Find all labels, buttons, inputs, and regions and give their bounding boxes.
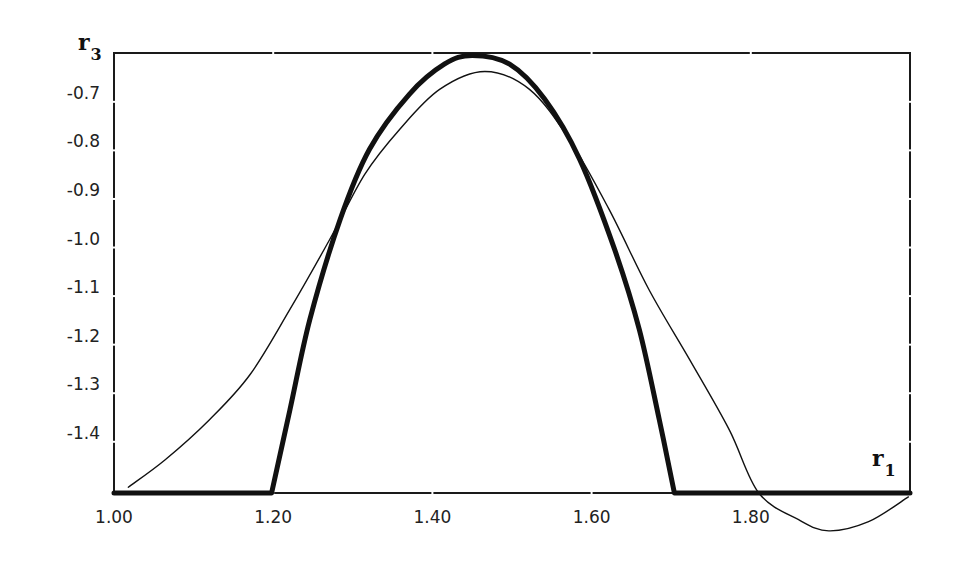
x-tick-label: 1.00 — [95, 507, 133, 527]
x-axis-title: r1 — [872, 445, 896, 480]
y-axis-ticks: -0.7-0.8-0.9-1.0-1.1-1.2-1.3-1.4 — [67, 83, 912, 443]
y-axis-title: r3 — [78, 29, 102, 64]
series-layer — [114, 55, 910, 531]
x-tick-label: 1.40 — [413, 507, 451, 527]
x-tick-label: 1.80 — [732, 507, 770, 527]
thick-curve-line — [114, 55, 910, 493]
x-tick-label: 1.60 — [573, 507, 611, 527]
y-tick-label: -0.7 — [67, 83, 100, 103]
x-tick-label: 1.20 — [254, 507, 292, 527]
y-tick-label: -1.2 — [67, 326, 100, 346]
y-tick-label: -0.9 — [67, 180, 100, 200]
thin-curve-line — [128, 72, 908, 531]
y-tick-label: -1.0 — [67, 229, 100, 249]
plot-frame — [114, 53, 910, 493]
y-tick-label: -0.8 — [67, 131, 100, 151]
y-tick-label: -1.4 — [67, 423, 100, 443]
y-tick-label: -1.3 — [67, 374, 100, 394]
line-chart: -0.7-0.8-0.9-1.0-1.1-1.2-1.3-1.4 1.001.2… — [0, 0, 960, 564]
y-tick-label: -1.1 — [67, 277, 100, 297]
